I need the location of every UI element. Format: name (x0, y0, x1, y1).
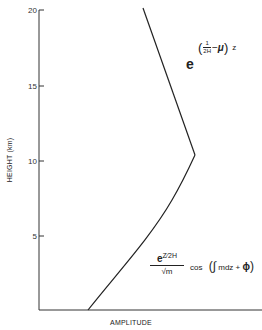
x-axis-title: AMPLITUDE (110, 319, 152, 326)
y-tick-label-10: 10 (28, 157, 37, 166)
y-axis-title: HEIGHT (km) (6, 138, 14, 182)
formula-exponent: (12H−μ)z (198, 40, 236, 55)
formula-denominator-sqrt-m: √m (150, 267, 184, 276)
phi-symbol: ϕ (242, 261, 250, 272)
upper-curve-formula: e (12H−μ)z (182, 36, 262, 72)
y-tick-label-5: 5 (33, 232, 38, 241)
y-tick-label-20: 20 (28, 6, 37, 15)
lower-amplitude-curve (88, 155, 195, 310)
z-variable: z (232, 43, 236, 52)
mdz-term: mdz (218, 263, 233, 272)
cos-term: cos (∫ mdz + ϕ) (190, 259, 254, 273)
plus-sign: + (236, 263, 241, 272)
formula-numerator: eZ⁄2H (150, 252, 184, 266)
paren-close: ) (224, 40, 228, 55)
cos-label: cos (190, 263, 202, 272)
exponent-z-over-2h: Z⁄2H (163, 252, 177, 259)
paren-close: ) (250, 259, 254, 273)
upper-amplitude-curve (143, 8, 195, 155)
lower-curve-formula: eZ⁄2H √m cos (∫ mdz + ϕ) (150, 252, 262, 284)
formula-fraction: eZ⁄2H √m (150, 252, 184, 276)
frac-num: 1 (203, 40, 211, 48)
fraction-1-over-2h: 12H (203, 40, 211, 55)
formula-e-base: e (186, 56, 194, 72)
integral-symbol: ∫ (213, 259, 216, 273)
paren-open: ( (198, 40, 202, 55)
frac-den: 2H (203, 48, 211, 55)
y-tick-label-15: 15 (28, 82, 37, 91)
